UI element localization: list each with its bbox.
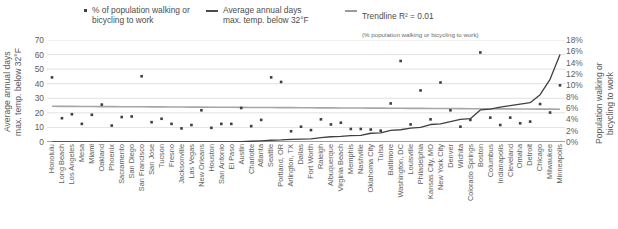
scatter-point [509, 116, 512, 119]
scatter-point [190, 124, 193, 127]
y-axis-right-tick: 6% [566, 104, 578, 113]
x-axis-category-label: Omaha [516, 144, 523, 168]
legend-trendline-text-group: Trendline R² = 0.01 (% population walkin… [362, 5, 479, 41]
x-axis-category-label: Washington, DC [397, 144, 404, 198]
scatter-point [250, 125, 253, 128]
x-axis-category-label: Phoenix [108, 144, 115, 171]
x-axis-category-label: Fresno [168, 144, 175, 167]
x-axis-category-label: San Francisco [138, 144, 145, 191]
scatter-point [439, 81, 442, 84]
x-axis-category-labels: HonoluluLong BeachLos AngelesMesaMiamiOa… [47, 144, 565, 229]
y-axis-right-tick: 18% [566, 36, 583, 45]
trendline [52, 106, 560, 109]
chart-svg [47, 40, 565, 142]
x-axis-category-label: Oakland [98, 144, 105, 172]
scatter-point [409, 123, 412, 126]
scatter-point [310, 129, 313, 132]
x-axis-category-label: Chicago [536, 144, 543, 171]
legend-item-percent-population: % of population walking or bicycling to … [84, 5, 190, 26]
scatter-point [429, 118, 432, 121]
x-axis-category-label: Fort Worth [307, 144, 314, 179]
x-axis-category-label: Las Vegas [188, 144, 195, 179]
scatter-point [459, 125, 462, 128]
scatter-point [220, 123, 223, 126]
x-axis-category-label: Milwaukee [546, 144, 553, 179]
x-axis-category-label: Baltimore [387, 144, 394, 175]
x-axis-category-label: Indianapolis [497, 144, 504, 183]
y-axis-left-tick: 70 [35, 36, 44, 45]
x-axis-category-label: Long Beach [58, 144, 65, 183]
scatter-point [340, 121, 343, 124]
scatter-point [399, 60, 402, 63]
scatter-point [330, 123, 333, 126]
scatter-point [270, 76, 273, 79]
scatter-point [479, 51, 482, 54]
x-axis-category-label: Cleveland [507, 144, 514, 177]
scatter-point [81, 123, 84, 126]
y-axis-left-tick: 50 [35, 65, 44, 74]
scatter-point [280, 81, 283, 84]
y-axis-left-tick: 30 [35, 94, 44, 103]
x-axis-category-label: Virginia Beach [337, 144, 344, 192]
x-axis-category-label: Minneapolis [556, 144, 563, 183]
x-axis-category-label: Memphis [347, 144, 354, 174]
x-axis-category-label: Los Angeles [68, 144, 75, 184]
legend-label-average-annual-days: Average annual days max. temp. below 32°… [223, 5, 309, 26]
scatter-point [469, 119, 472, 122]
y-axis-left-tick: 20 [35, 109, 44, 118]
x-axis-category-label: Kansas City, MO [427, 144, 434, 199]
scatter-point [140, 75, 143, 78]
scatter-point [549, 111, 552, 114]
scatter-point [110, 124, 113, 127]
scatter-point [499, 124, 502, 127]
x-axis-category-label: Austin [238, 144, 245, 165]
scatter-point [100, 103, 103, 106]
scatter-point [389, 102, 392, 105]
x-axis-category-label: Honolulu [48, 144, 55, 173]
x-axis-category-label: San Antonio [218, 144, 225, 184]
x-axis-category-label: Portland, OR [277, 144, 284, 187]
x-axis-category-label: Dallas [297, 144, 304, 165]
x-axis-category-label: Houston [208, 144, 215, 172]
x-axis-category-label: Columbus [487, 144, 494, 177]
x-axis-category-label: Jacksonville [178, 144, 185, 184]
y-axis-right-tick: 16% [566, 47, 583, 56]
x-axis-category-label: Boston [477, 144, 484, 167]
scatter-point [170, 123, 173, 126]
scatter-point [91, 114, 94, 117]
scatter-point [120, 116, 123, 119]
x-axis-category-label: Louisville [407, 144, 414, 174]
y-axis-right-tick: 8% [566, 93, 578, 102]
x-axis-category-label: Detroit [526, 144, 533, 166]
x-axis-category-label: Tucson [158, 144, 165, 168]
scatter-point [290, 130, 293, 133]
chart-legend: % of population walking or bicycling to … [0, 0, 618, 34]
x-axis-category-label: Arlington, TX [287, 144, 294, 187]
legend-item-average-annual-days: Average annual days max. temp. below 32°… [206, 5, 309, 26]
scatter-point [369, 128, 372, 131]
scatter-point [240, 107, 243, 110]
x-axis-category-label: Philadelphia [417, 144, 424, 184]
scatter-point [150, 121, 153, 124]
square-dot-marker-icon [84, 9, 87, 12]
line-marker-icon [206, 10, 218, 12]
x-axis-category-label: Wichita [457, 144, 464, 168]
x-axis-category-label: New York City [437, 144, 444, 190]
chart-plot-area [47, 40, 565, 142]
scatter-point [519, 122, 522, 125]
y-axis-left-tick: 0 [39, 138, 44, 147]
y-axis-right-tick: 12% [566, 70, 583, 79]
scatter-point [180, 127, 183, 130]
x-axis-category-label: Tulsa [377, 144, 384, 162]
y-axis-right-title: Population walking or bicycling to work [594, 38, 616, 168]
scatter-point [300, 125, 303, 128]
scatter-point [419, 89, 422, 92]
x-axis-category-label: Sacramento [118, 144, 125, 184]
scatter-point [449, 109, 452, 112]
legend-item-trendline: Trendline R² = 0.01 (% population walkin… [345, 5, 479, 41]
scatter-point [320, 118, 323, 121]
scatter-point [200, 109, 203, 112]
x-axis-category-label: Oklahoma City [367, 144, 374, 192]
x-axis-category-label: San Diego [128, 144, 135, 179]
y-axis-right-tick: 2% [566, 127, 578, 136]
